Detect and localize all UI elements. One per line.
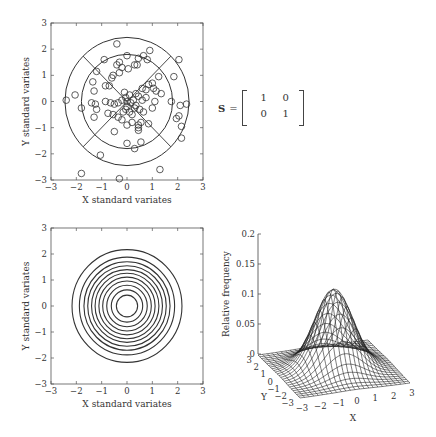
y-tick: −3 (281, 398, 294, 408)
x-tick: −2 (314, 401, 327, 411)
data-point (124, 140, 131, 147)
contour-line (107, 285, 148, 327)
contour-xtick: 2 (175, 386, 180, 396)
matrix-block: S = 1 0 0 1 (218, 88, 304, 128)
scatter-content (63, 37, 190, 182)
matrix-cell: 0 (277, 92, 295, 108)
data-point (171, 73, 178, 80)
y-tick: 1 (261, 369, 266, 379)
contour-ytick: −1 (34, 327, 47, 337)
scatter-ytick: −2 (34, 149, 47, 159)
data-point (63, 97, 70, 104)
contour-xtick: −2 (70, 386, 83, 396)
surface-plot (258, 234, 410, 398)
scatter-ytick: −3 (34, 175, 47, 185)
x-tick: 0 (354, 396, 359, 406)
data-point (176, 56, 183, 63)
data-point (177, 102, 184, 109)
x-tick: 1 (373, 393, 378, 403)
contour-line (84, 262, 170, 350)
scatter-ylabel: Y standard variates (21, 57, 31, 147)
data-point (149, 105, 156, 112)
data-point (152, 98, 159, 105)
data-point (93, 68, 100, 75)
data-point (138, 139, 145, 146)
data-point (116, 175, 123, 182)
data-point (111, 128, 118, 135)
scatter-ytick: 2 (42, 44, 47, 54)
scatter-ytick: 3 (42, 18, 47, 28)
data-point (114, 41, 121, 48)
data-point (116, 69, 123, 76)
data-point (97, 152, 104, 159)
z-label: Relative frequency (221, 250, 231, 337)
contour-line (72, 250, 182, 363)
contour-line (88, 266, 167, 347)
contour-line (99, 277, 155, 335)
x-tick: 2 (391, 391, 396, 401)
scatter-xtick: 3 (200, 182, 205, 192)
data-point (178, 123, 185, 130)
scatter-xlabel: X standard variates (82, 195, 172, 205)
contour-ytick: 3 (42, 223, 47, 233)
scatter-ytick: 0 (42, 97, 47, 107)
x-tick: −3 (296, 403, 309, 413)
matrix-equals: = (229, 103, 237, 114)
scatter-xtick: 1 (150, 182, 155, 192)
z-tick: 0.2 (241, 229, 255, 239)
x-tick: −1 (332, 398, 345, 408)
contour-line (79, 257, 174, 355)
data-point (140, 52, 147, 59)
data-point (157, 166, 164, 173)
contour-xtick: 0 (124, 386, 129, 396)
contour-ytick: 2 (42, 249, 47, 259)
data-point (111, 101, 118, 108)
contour-frame (51, 228, 203, 384)
y-label: Y (260, 392, 268, 402)
scatter-xtick: 0 (124, 182, 129, 192)
data-point (90, 79, 97, 86)
contour-line (116, 295, 137, 317)
data-point (72, 92, 79, 99)
z-tick: 0.05 (236, 319, 255, 329)
data-point (102, 83, 109, 90)
scatter-ytick: −1 (34, 123, 47, 133)
matrix-bracket-right (299, 90, 304, 126)
x-tick: 3 (409, 388, 414, 398)
x-label: X (350, 413, 357, 423)
scatter-ytick: 1 (42, 70, 47, 80)
scatter-xtick: −1 (95, 182, 108, 192)
matrix-cell: 1 (251, 92, 277, 108)
data-point (147, 47, 154, 54)
data-point (91, 114, 98, 121)
contour-line (103, 281, 152, 331)
contour-xtick: 3 (200, 386, 205, 396)
contour-ytick: −2 (34, 353, 47, 363)
y-tick: 2 (254, 362, 259, 372)
matrix-symbol: S (218, 103, 225, 114)
matrix-cell: 0 (251, 108, 277, 124)
contour-xtick: 1 (150, 386, 155, 396)
contour-ylabel: Y standard variates (21, 261, 31, 351)
data-point (178, 135, 185, 142)
contour-content (72, 250, 182, 363)
data-point (91, 88, 98, 95)
figure-canvas: −33−22−11001−12−23−3X standard variatesY… (0, 0, 436, 437)
matrix-body: 1 0 0 1 (247, 92, 299, 124)
scatter-xtick: 2 (175, 182, 180, 192)
scatter-xtick: −2 (70, 182, 83, 192)
data-point (158, 90, 165, 97)
contour-axes (51, 228, 203, 384)
z-tick: 0.1 (241, 289, 255, 299)
z-tick: 0.15 (236, 259, 255, 269)
data-point (155, 73, 162, 80)
data-point (125, 65, 132, 72)
contour-ytick: −3 (34, 379, 47, 389)
contour-ytick: 1 (42, 275, 47, 285)
data-point (124, 122, 131, 129)
data-point (78, 170, 85, 177)
contour-xlabel: X standard variates (82, 399, 172, 409)
contour-xtick: −1 (95, 386, 108, 396)
data-point (124, 52, 131, 59)
data-point (129, 119, 136, 126)
